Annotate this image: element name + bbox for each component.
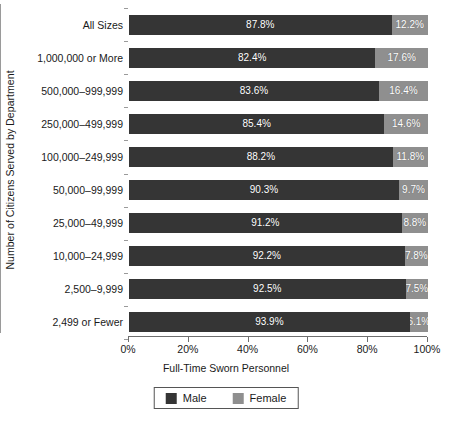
chart-category-row: 1,000,000 or More82.4%17.6% xyxy=(128,41,427,74)
bar-segment-female: 11.8% xyxy=(393,147,428,167)
bar-segment-male: 92.5% xyxy=(129,279,406,299)
x-axis-tick-label: 20% xyxy=(177,343,198,355)
chart-category-row: 100,000–249,99988.2%11.8% xyxy=(128,140,427,173)
stacked-bar: 83.6%16.4% xyxy=(129,81,428,101)
x-axis-tick xyxy=(188,337,189,342)
y-axis-tick-label: 25,000–49,999 xyxy=(53,217,123,229)
x-axis-tick-label: 100% xyxy=(414,343,441,355)
stacked-bar: 85.4%14.6% xyxy=(129,114,428,134)
x-axis-tick xyxy=(367,337,368,342)
stacked-bar: 93.9%6.1% xyxy=(129,312,428,332)
bar-segment-male: 82.4% xyxy=(129,48,375,68)
bar-segment-male: 85.4% xyxy=(129,114,384,134)
bar-segment-male: 87.8% xyxy=(129,15,392,35)
y-axis-tick xyxy=(124,306,128,307)
bar-segment-female: 7.5% xyxy=(406,279,428,299)
y-axis-tick-label: 500,000–999,999 xyxy=(41,85,123,97)
chart-category-row: All Sizes87.8%12.2% xyxy=(128,8,427,41)
bar-value-label-female: 7.8% xyxy=(405,251,428,261)
y-axis-tick-label: 2,500–9,999 xyxy=(65,283,123,295)
bar-value-label-male: 90.3% xyxy=(250,185,278,195)
y-axis-spine xyxy=(0,4,1,333)
y-axis-tick xyxy=(124,273,128,274)
y-axis-tick xyxy=(124,140,128,141)
y-axis-tick-label: 1,000,000 or More xyxy=(37,52,123,64)
bar-segment-male: 93.9% xyxy=(129,312,410,332)
y-axis-tick-label: All Sizes xyxy=(83,19,123,31)
bar-value-label-female: 9.7% xyxy=(402,185,425,195)
x-axis-tick-label: 40% xyxy=(237,343,258,355)
stacked-bar: 92.5%7.5% xyxy=(129,279,428,299)
bar-value-label-female: 8.8% xyxy=(403,218,426,228)
bar-segment-male: 88.2% xyxy=(129,147,393,167)
plot-area: All Sizes87.8%12.2%1,000,000 or More82.4… xyxy=(128,4,427,337)
x-axis-tick-label: 80% xyxy=(357,343,378,355)
bar-segment-male: 91.2% xyxy=(129,213,402,233)
y-axis-tick-label: 50,000–99,999 xyxy=(53,184,123,196)
stacked-bar: 91.2%8.8% xyxy=(129,213,428,233)
y-axis-title-text: Number of Citizens Served by Department xyxy=(4,70,16,269)
bar-value-label-female: 11.8% xyxy=(397,152,425,162)
chart-category-row: 10,000–24,99992.2%7.8% xyxy=(128,240,427,273)
bar-value-label-male: 92.5% xyxy=(253,284,281,294)
bar-segment-female: 7.8% xyxy=(405,246,428,266)
bar-value-label-male: 92.2% xyxy=(253,251,281,261)
stacked-bar: 92.2%7.8% xyxy=(129,246,428,266)
bar-segment-female: 12.2% xyxy=(392,15,428,35)
chart-category-row: 2,500–9,99992.5%7.5% xyxy=(128,273,427,306)
bar-value-label-female: 7.5% xyxy=(406,284,428,294)
chart-category-row: 50,000–99,99990.3%9.7% xyxy=(128,174,427,207)
x-axis-tick-label: 60% xyxy=(297,343,318,355)
legend-label: Male xyxy=(183,392,207,404)
bar-value-label-female: 6.1% xyxy=(410,317,428,327)
bar-value-label-female: 14.6% xyxy=(392,119,420,129)
y-axis-title: Number of Citizens Served by Department xyxy=(0,0,20,340)
y-axis-tick xyxy=(124,240,128,241)
chart-category-row: 25,000–49,99991.2%8.8% xyxy=(128,207,427,240)
y-axis-tick-label: 2,499 or Fewer xyxy=(52,316,123,328)
y-axis-tick xyxy=(124,8,128,9)
legend-item: Female xyxy=(233,392,287,404)
y-axis-tick xyxy=(124,174,128,175)
legend-swatch-icon xyxy=(166,393,177,404)
y-axis-tick xyxy=(124,41,128,42)
chart-legend: MaleFemale xyxy=(154,387,299,409)
x-axis-title: Full-Time Sworn Personnel xyxy=(0,362,452,374)
bar-segment-male: 90.3% xyxy=(129,180,399,200)
bar-segment-female: 9.7% xyxy=(399,180,428,200)
bar-value-label-male: 88.2% xyxy=(247,152,275,162)
stacked-bar: 87.8%12.2% xyxy=(129,15,428,35)
bar-segment-female: 8.8% xyxy=(402,213,428,233)
x-axis-tick xyxy=(307,337,308,342)
bar-segment-male: 83.6% xyxy=(129,81,379,101)
x-axis-tick xyxy=(128,337,129,342)
stacked-bar: 88.2%11.8% xyxy=(129,147,428,167)
x-axis-tick-label: 0% xyxy=(120,343,135,355)
chart-category-row: 250,000–499,99985.4%14.6% xyxy=(128,107,427,140)
bar-segment-female: 6.1% xyxy=(410,312,428,332)
x-axis-tick xyxy=(248,337,249,342)
bar-value-label-female: 12.2% xyxy=(396,20,424,30)
bar-value-label-male: 82.4% xyxy=(238,53,266,63)
bar-value-label-female: 16.4% xyxy=(389,86,417,96)
bar-value-label-male: 87.8% xyxy=(246,20,274,30)
legend-item: Male xyxy=(166,392,207,404)
x-axis-tick xyxy=(427,337,428,342)
stacked-bar: 90.3%9.7% xyxy=(129,180,428,200)
y-axis-tick xyxy=(124,74,128,75)
y-axis-tick xyxy=(124,207,128,208)
bar-segment-female: 16.4% xyxy=(379,81,428,101)
legend-swatch-icon xyxy=(233,393,244,404)
stacked-bar: 82.4%17.6% xyxy=(129,48,428,68)
bar-value-label-male: 85.4% xyxy=(242,119,270,129)
y-axis-tick-label: 250,000–499,999 xyxy=(41,118,123,130)
bar-value-label-female: 17.6% xyxy=(388,53,416,63)
y-axis-tick-label: 10,000–24,999 xyxy=(53,250,123,262)
legend-label: Female xyxy=(250,392,287,404)
bar-value-label-male: 91.2% xyxy=(251,218,279,228)
chart-category-row: 500,000–999,99983.6%16.4% xyxy=(128,74,427,107)
chart-category-row: 2,499 or Fewer93.9%6.1% xyxy=(128,306,427,339)
bar-value-label-male: 93.9% xyxy=(255,317,283,327)
bar-value-label-male: 83.6% xyxy=(240,86,268,96)
bar-segment-male: 92.2% xyxy=(129,246,405,266)
